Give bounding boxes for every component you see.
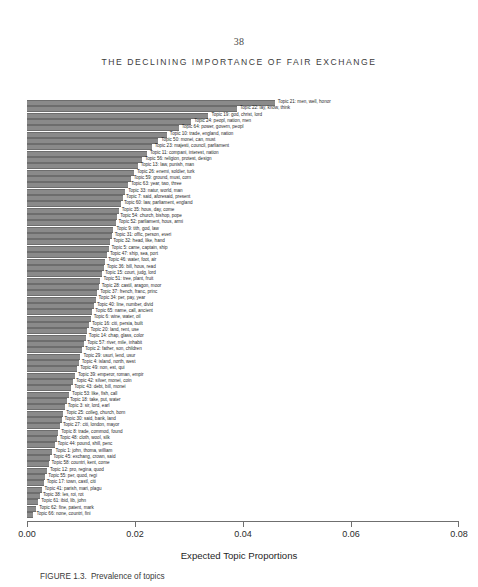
- bar-label: Topic 8: trade, commod, found: [61, 429, 122, 435]
- x-axis-tick: [243, 521, 244, 527]
- bar-label: Topic 58: countri, kent, come: [52, 460, 110, 466]
- bar-label: Topic 54: church, bishop, pope: [120, 213, 182, 219]
- bar-label: Topic 21: men, well, honor: [278, 99, 331, 105]
- bar: [27, 151, 147, 157]
- bar: [27, 449, 52, 455]
- bar-label: Topic 39: emperor, roman, empir: [78, 372, 144, 378]
- figure-caption-number: FIGURE 1.3.: [40, 572, 87, 581]
- bar-label: Topic 32: head, like, hand: [113, 238, 165, 244]
- bar: [27, 259, 105, 265]
- bar-label: Topic 9: tith, god, law: [116, 226, 158, 232]
- bar-label: Topic 57: river, mile, inhabit: [87, 340, 142, 346]
- bar-label: Topic 35: hous, day, come: [122, 207, 175, 213]
- bar-label: Topic 22: lay, know, think: [240, 105, 290, 111]
- bar-label: Topic 36: bill, hous, read: [107, 264, 156, 270]
- bar-label: Topic 37: french, franc, princ: [100, 289, 157, 295]
- x-axis-tick: [458, 521, 459, 527]
- bar-label: Topic 52: parliament, hous, armi: [119, 219, 183, 225]
- bar-label: Topic 48: cloth, wool, silk: [60, 435, 110, 441]
- bar: [27, 132, 167, 138]
- bar-label: Topic 29: usuri, lend, usur: [83, 353, 135, 359]
- bar: [27, 411, 63, 417]
- bar: [27, 201, 121, 207]
- bar-label: Topic 44: pound, shill, penc: [58, 441, 113, 447]
- bar-label: Topic 49: non, est, qui: [80, 365, 124, 371]
- bar-label: Topic 5: came, captain, ship: [112, 245, 168, 251]
- bar: [27, 106, 237, 112]
- bar: [27, 316, 91, 322]
- x-axis-tick-label: 0.02: [126, 529, 144, 539]
- bar: [27, 430, 58, 436]
- bar: [27, 182, 128, 188]
- bar: [27, 100, 275, 106]
- bar-label: Topic 55: per, quod, regi: [48, 473, 97, 479]
- bar: [27, 436, 57, 442]
- bar: [27, 138, 158, 144]
- bar: [27, 278, 100, 284]
- bar: [27, 373, 75, 379]
- bar: [27, 119, 191, 125]
- bar-label: Topic 10: trade, england, nation: [170, 131, 233, 137]
- bar-label: Topic 41: parish, mari, plagu: [45, 486, 102, 492]
- bar: [27, 474, 45, 480]
- bar: [27, 176, 131, 182]
- bar-label: Topic 24: peopl, nation, men: [194, 118, 251, 124]
- bar-label: Topic 16: citi, persia, built: [92, 321, 143, 327]
- bar: [27, 328, 87, 334]
- bar: [27, 309, 92, 315]
- bar-label: Topic 42: silver, monei, coin: [76, 378, 132, 384]
- bar: [27, 366, 77, 372]
- bar-label: Topic 65: name, call, ancient: [95, 308, 152, 314]
- bar: [27, 398, 67, 404]
- bar-label: Topic 51: tree, plant, fruit: [103, 276, 153, 282]
- x-axis-tick-label: 0.06: [342, 529, 360, 539]
- bar-label: Topic 63: year, two, three: [131, 181, 182, 187]
- bar: [27, 354, 80, 360]
- bar-label: Topic 38: les, roi, rot: [43, 492, 84, 498]
- bar-label: Topic 19: god, christ, lord: [211, 112, 262, 118]
- bar: [27, 157, 142, 163]
- bar: [27, 480, 44, 486]
- bar-label: Topic 60: law, parliament, england: [124, 200, 193, 206]
- bar-label: Topic 4: island, north, west: [82, 359, 136, 365]
- bar-label: Topic 27: citi, london, mayor: [63, 422, 119, 428]
- bar-label: Topic 62: fine, patent, mark: [39, 505, 94, 511]
- bar-label: Topic 6: wine, water, oil: [94, 314, 141, 320]
- bar: [27, 417, 62, 423]
- bar: [27, 455, 50, 461]
- bar: [27, 347, 82, 353]
- bar: [27, 379, 73, 385]
- bar: [27, 195, 123, 201]
- bar-label: Topic 46: water, foot, air: [108, 257, 156, 263]
- page-number: 38: [0, 36, 478, 47]
- x-axis: 0.000.020.040.060.08: [27, 521, 459, 529]
- bar-label: Topic 66: none, countri, fini: [36, 511, 90, 517]
- bar-label: Topic 13: law, punish, man: [141, 162, 194, 168]
- bar-label: Topic 33: natur, world, man: [128, 188, 182, 194]
- bar: [27, 423, 60, 429]
- bar-label: Topic 14: chap, glass, color: [89, 333, 144, 339]
- chart-plot-area: Topic 21: men, well, honorTopic 22: lay,…: [27, 97, 459, 515]
- bar: [27, 468, 47, 474]
- bar: [27, 252, 107, 258]
- bar: [27, 303, 94, 309]
- bar: [27, 385, 71, 391]
- bar-label: Topic 34: per, pay, year: [99, 295, 146, 301]
- bar-label: Topic 1: john, thoma, william: [55, 448, 112, 454]
- bar: [27, 233, 112, 239]
- bar-label: Topic 28: castil, aragon, moor: [102, 283, 161, 289]
- bar: [27, 284, 99, 290]
- x-axis-tick: [135, 521, 136, 527]
- bar: [27, 499, 38, 505]
- bar-label: Topic 18: take, put, water: [70, 397, 121, 403]
- bar: [27, 392, 69, 398]
- bar-label: Topic 17: town, castl, citi: [47, 479, 96, 485]
- bar-label: Topic 11: compani, interest, nation: [150, 150, 219, 156]
- bar: [27, 170, 134, 176]
- bar-label: Topic 43: debt, bill, monei: [74, 384, 125, 390]
- bar: [27, 506, 36, 512]
- bar: [27, 220, 116, 226]
- bar: [27, 360, 79, 366]
- bar: [27, 493, 40, 499]
- x-axis-tick-label: 0.04: [234, 529, 252, 539]
